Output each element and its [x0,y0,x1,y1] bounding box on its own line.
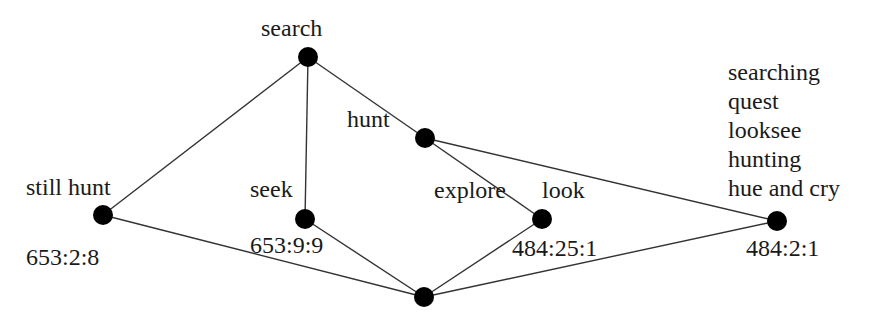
node-look [532,209,552,229]
node-seek [295,209,315,229]
code-look: 484:25:1 [512,235,597,261]
edge-seek-bottom [305,219,424,297]
label-seek: seek [250,176,293,202]
node-bottom [414,287,434,307]
lattice-diagram: search hunt still hunt 653:2:8 seek 653:… [0,0,885,315]
code-still-hunt: 653:2:8 [26,244,99,270]
node-still-hunt [93,205,113,225]
label-still-hunt: still hunt [26,174,111,200]
label-search: search [261,15,322,41]
node-search [298,47,318,67]
label-looksee: looksee [728,117,801,143]
label-searching: searching [728,59,820,85]
label-hunting: hunting [728,146,801,172]
edge-bottom-right [424,221,777,297]
label-explore: explore [434,177,506,203]
node-hunt [415,128,435,148]
edge-search-seek [305,57,308,219]
label-hunt: hunt [347,106,390,132]
label-quest: quest [728,88,779,114]
label-hue-and-cry: hue and cry [728,175,840,201]
node-right [767,211,787,231]
label-look: look [542,177,585,203]
code-seek: 653:9:9 [250,232,323,258]
code-right: 484:2:1 [746,235,819,261]
